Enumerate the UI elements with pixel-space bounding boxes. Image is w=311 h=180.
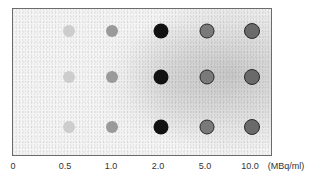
blot-dot (244, 23, 260, 39)
blot-dot (200, 24, 215, 39)
tick-label-10.0: 10.0 (241, 161, 259, 171)
tick-label-0.5: 0.5 (59, 161, 72, 171)
blot-dot (63, 121, 75, 133)
blot-dot (154, 120, 169, 135)
unit-label: (MBq/ml) (268, 161, 305, 171)
film-grain (13, 9, 271, 155)
blot-dot (200, 70, 215, 85)
blot-dot (106, 121, 118, 133)
blot-dot (63, 71, 75, 83)
blot-dot (200, 120, 215, 135)
blot-dot (154, 70, 169, 85)
blot-dot (154, 24, 169, 39)
blot-dot (63, 25, 75, 37)
tick-label-5.0: 5.0 (199, 161, 212, 171)
blot-dot (106, 25, 118, 37)
dot-blot-membrane (12, 8, 272, 156)
blot-dot (106, 71, 118, 83)
blot-dot (244, 69, 260, 85)
tick-label-2.0: 2.0 (152, 161, 165, 171)
tick-label-0: 0 (10, 161, 15, 171)
blot-dot (244, 119, 260, 135)
tick-label-1.0: 1.0 (105, 161, 118, 171)
